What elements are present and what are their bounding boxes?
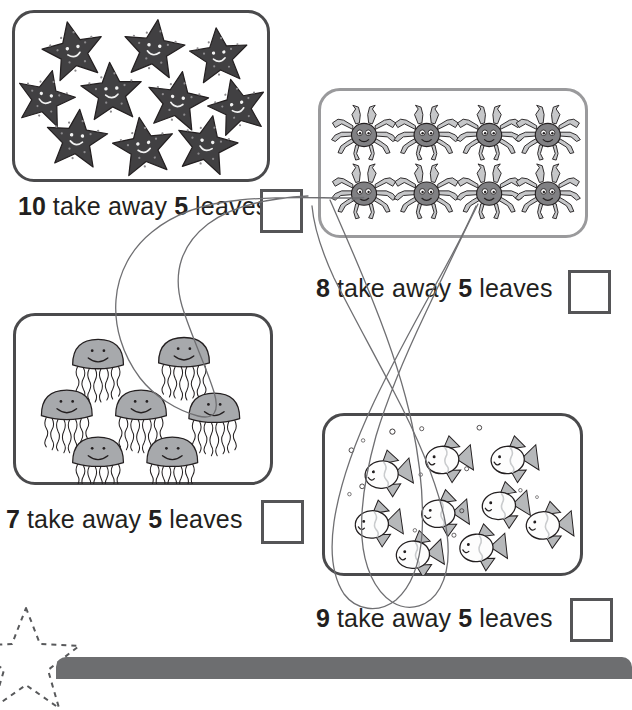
minuend-jellyfish: 7: [6, 505, 20, 534]
leaves-text-jellyfish: leaves: [169, 505, 242, 534]
footer-banner-text: [110, 664, 570, 678]
answer-box-fish[interactable]: [570, 598, 613, 642]
leaves-text-crabs: leaves: [479, 274, 552, 303]
picture-box-starfish: [12, 10, 270, 182]
dashed-star-outline: [0, 600, 118, 710]
take-away-text-crabs: take away: [337, 274, 451, 303]
take-away-text-starfish: take away: [53, 192, 167, 221]
answer-box-starfish[interactable]: [260, 189, 303, 233]
subtrahend-starfish: 5: [174, 192, 188, 221]
equation-row-fish: 9 take away 5 leaves: [316, 604, 553, 633]
crab-group: [321, 91, 585, 238]
picture-box-crabs: [318, 88, 588, 238]
leaves-text-starfish: leaves: [195, 192, 268, 221]
answer-box-jellyfish[interactable]: [261, 500, 304, 544]
minuend-starfish: 10: [18, 192, 46, 221]
subtrahend-fish: 5: [458, 604, 472, 633]
equation-row-crabs: 8 take away 5 leaves: [316, 274, 553, 303]
take-away-text-jellyfish: take away: [27, 505, 141, 534]
take-away-text-fish: take away: [337, 604, 451, 633]
equation-row-jellyfish: 7 take away 5 leaves: [6, 505, 243, 534]
picture-box-jellyfish: [13, 313, 273, 485]
subtrahend-crabs: 5: [458, 274, 472, 303]
minuend-crabs: 8: [316, 274, 330, 303]
fish-group: [325, 416, 580, 575]
leaves-text-fish: leaves: [479, 604, 552, 633]
starfish-group: [15, 13, 267, 181]
minuend-fish: 9: [316, 604, 330, 633]
equation-row-starfish: 10 take away 5 leaves: [18, 192, 269, 221]
answer-box-crabs[interactable]: [568, 270, 611, 314]
picture-box-fish: [322, 413, 583, 576]
jellyfish-group: [16, 316, 270, 484]
subtrahend-jellyfish: 5: [148, 505, 162, 534]
